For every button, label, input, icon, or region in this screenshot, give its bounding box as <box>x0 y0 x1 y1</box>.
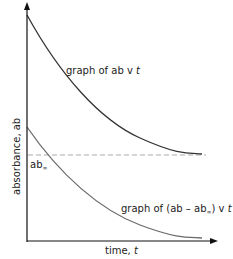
upper-curve-label: graph of ab v t <box>66 65 141 76</box>
lower-curve-label: graph of (ab – ab∞) v t <box>121 203 233 215</box>
y-axis-arrow-icon <box>24 2 30 10</box>
lower-curve <box>27 127 202 238</box>
x-axis-arrow-icon <box>210 238 218 244</box>
asymptote-label: ab∞ <box>30 159 47 171</box>
absorbance-diagram: absorbance, ab time, t graph of ab v t g… <box>0 0 233 259</box>
y-axis-label: absorbance, ab <box>11 118 22 195</box>
upper-curve <box>27 15 202 154</box>
x-axis-label: time, t <box>105 245 139 256</box>
